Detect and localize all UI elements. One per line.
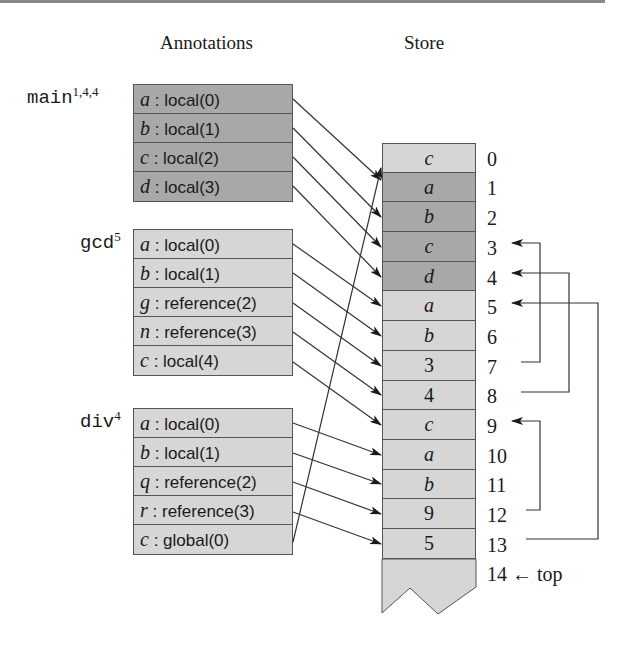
ref-arrow-12-to-9 <box>512 421 540 510</box>
arrow-main-c <box>293 157 381 247</box>
arrow-div-b <box>293 453 381 484</box>
arrow-gcd-n <box>293 332 381 395</box>
arrow-div-a <box>293 423 381 455</box>
arrow-main-b <box>293 128 381 217</box>
arrow-gcd-a <box>293 244 381 306</box>
arrow-main-d <box>293 186 381 277</box>
arrow-main-a <box>293 99 381 180</box>
store-torn-bottom <box>382 559 476 614</box>
arrows-overlay <box>0 0 627 650</box>
arrow-div-c-global <box>293 168 381 542</box>
arrow-div-r <box>293 512 381 544</box>
arrow-gcd-b <box>293 273 381 336</box>
arrow-gcd-c <box>293 362 381 425</box>
